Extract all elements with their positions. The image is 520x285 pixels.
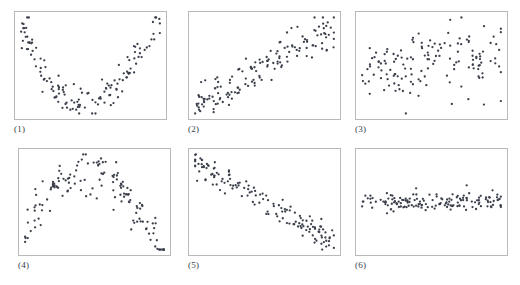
scatter-svg-5 bbox=[189, 149, 340, 255]
plot-area-5 bbox=[188, 148, 341, 256]
scatter-panel-figure: (1) (2) (3) (4) (5) (6) bbox=[0, 0, 520, 285]
scatter-svg-6 bbox=[356, 149, 507, 255]
plot-area-6 bbox=[355, 148, 508, 256]
plot-area-1 bbox=[14, 11, 167, 120]
plot-area-3 bbox=[355, 11, 508, 120]
scatter-svg-2 bbox=[189, 12, 340, 119]
plot-area-2 bbox=[188, 11, 341, 120]
scatter-svg-3 bbox=[356, 12, 507, 119]
plot-area-4 bbox=[18, 148, 171, 256]
scatter-svg-4 bbox=[19, 149, 170, 255]
scatter-svg-1 bbox=[15, 12, 166, 119]
